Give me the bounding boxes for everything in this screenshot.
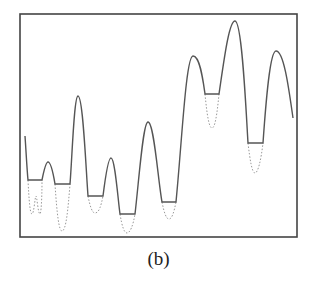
clipped-curve	[25, 21, 293, 214]
dotted-valley	[120, 214, 135, 233]
dotted-valley	[88, 196, 103, 213]
figure-caption: (b)	[0, 248, 317, 270]
dotted-valley	[248, 143, 263, 173]
plot-frame	[20, 14, 297, 237]
clipped-valley-dotted-lines	[28, 94, 263, 233]
dotted-valley	[28, 180, 42, 214]
figure-plot	[0, 0, 317, 286]
dotted-valley	[205, 94, 219, 128]
dotted-valley	[162, 202, 176, 219]
dotted-valley	[55, 184, 70, 231]
